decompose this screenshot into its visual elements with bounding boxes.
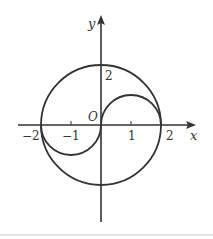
y-tick-label-2: 2 [105, 69, 113, 83]
coordinate-diagram: y x O 2 −2 −1 1 2 [0, 0, 213, 239]
upper-right-semicircle [101, 95, 161, 125]
origin-label: O [88, 110, 98, 124]
x-tick-label-2: 2 [166, 129, 174, 143]
x-axis-label: x [190, 128, 198, 143]
x-tick-label-neg1: −1 [62, 129, 80, 143]
y-axis-label: y [87, 16, 96, 31]
x-tick-label-1: 1 [128, 129, 136, 143]
x-tick-label-neg2: −2 [22, 129, 40, 143]
